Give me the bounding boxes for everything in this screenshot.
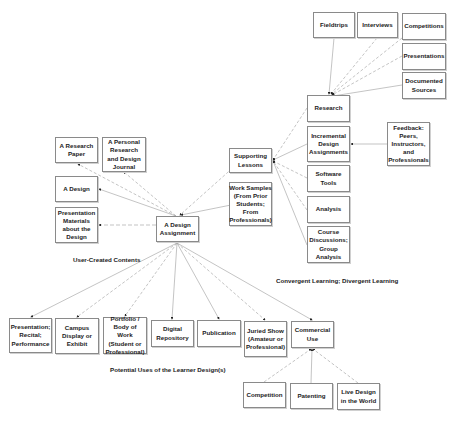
node-patenting: Patenting <box>290 383 333 409</box>
node-campus-display: Campus Display or Exhibit <box>55 318 99 354</box>
node-research: Research <box>307 95 350 122</box>
node-personal-journal: A Personal Research and Design Journal <box>102 137 146 172</box>
node-competitions: Competitions <box>402 13 446 40</box>
node-feedback: Feedback: Peers, Instructors, and Profes… <box>387 122 430 166</box>
node-research-paper: A Research Paper <box>55 137 98 163</box>
node-design-assignment: A Design Assignment <box>156 216 199 242</box>
node-a-design: A Design <box>55 176 98 202</box>
node-presentations: Presentations <box>402 43 446 70</box>
node-juried-show: Juried Show (Amateur or Professional) <box>244 321 287 357</box>
node-incremental-design-assignments: Incremental Design Assignments <box>307 126 350 162</box>
label-user-created-contents: User-Created Contents <box>73 256 140 263</box>
node-digital-repository: Digital Repository <box>151 320 194 347</box>
node-interviews: Interviews <box>357 12 398 38</box>
label-convergent-divergent: Convergent Learning; Divergent Learning <box>276 277 398 284</box>
node-portfolio: Portfolio / Body of Work (Student or Pro… <box>103 317 147 354</box>
node-live-design: Live Design in the World <box>337 383 380 410</box>
node-software-tools: Software Tools <box>307 165 350 192</box>
node-fieldtrips: Fieldtrips <box>313 12 355 38</box>
node-work-samples: Work Samples (From Prior Students; From … <box>229 182 272 226</box>
diagram-canvas: Fieldtrips Interviews Competitions Prese… <box>0 0 460 424</box>
node-publication: Publication <box>197 320 241 347</box>
node-commercial-use: Commercial Use <box>291 321 334 348</box>
node-presentation-materials: Presentation Materials about the Design <box>55 207 98 243</box>
node-course-discussions: Course Discussions; Group Analysis <box>307 226 350 263</box>
node-presentation-recital: Presentation; Recital; Performance <box>9 318 52 353</box>
node-documented-sources: Documented Sources <box>402 72 446 99</box>
label-potential-uses: Potential Uses of the Learner Design(s) <box>110 366 226 373</box>
node-supporting-lessons: Supporting Lessons <box>229 148 272 173</box>
node-competition: Competition <box>243 382 286 408</box>
node-analysis: Analysis <box>307 196 350 223</box>
